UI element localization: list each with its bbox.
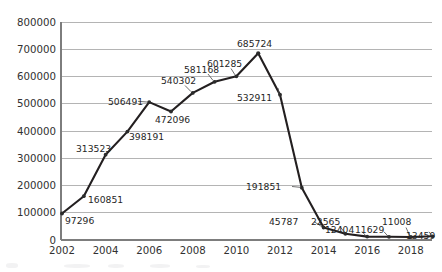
data-label: 11008 — [382, 216, 411, 227]
data-label: 12404 — [325, 224, 354, 235]
data-label: 160851 — [88, 194, 123, 205]
data-label: 97296 — [65, 215, 94, 226]
data-point — [191, 91, 195, 95]
y-tick-label: 0 — [50, 235, 56, 246]
data-point — [256, 51, 260, 55]
data-label: 13459 — [406, 230, 435, 241]
y-tick-label: 700000 — [17, 44, 56, 55]
x-tick-label: 2016 — [354, 245, 380, 256]
data-label: 532911 — [237, 92, 272, 103]
leader-line — [231, 69, 235, 75]
x-tick-label: 2014 — [311, 245, 337, 256]
data-label: 398191 — [129, 131, 164, 142]
y-tick-label: 300000 — [17, 153, 56, 164]
line-chart: 800000 700000 600000 500000 400000 30000… — [0, 0, 442, 272]
x-tick-label: 2006 — [136, 245, 162, 256]
data-label: 313523 — [76, 143, 111, 154]
x-tick-label: 2018 — [398, 245, 424, 256]
x-tick-label: 2010 — [223, 245, 249, 256]
data-point — [82, 194, 86, 198]
chart-canvas: 800000 700000 600000 500000 400000 30000… — [0, 0, 442, 272]
leader-line — [185, 86, 191, 92]
x-tick-label: 2008 — [180, 245, 206, 256]
y-tick-label: 800000 — [17, 17, 56, 28]
data-point — [169, 110, 173, 114]
data-label: 191851 — [246, 181, 281, 192]
data-label: 540302 — [161, 75, 196, 86]
data-label: 45787 — [269, 216, 298, 227]
series-line — [62, 53, 433, 237]
leader-line — [208, 74, 213, 80]
data-point — [235, 74, 239, 78]
y-tick-label: 600000 — [17, 71, 56, 82]
y-tick-label: 200000 — [17, 180, 56, 191]
leader-line — [292, 187, 301, 188]
x-tick-label: 2012 — [267, 245, 293, 256]
data-label: 601285 — [207, 58, 242, 69]
data-label: 11629 — [355, 224, 384, 235]
x-axis-tick-labels: 2002 2004 2006 2008 2010 2012 2014 2016 … — [49, 245, 424, 256]
data-point — [213, 80, 217, 84]
data-label: 472096 — [155, 114, 190, 125]
x-tick-label: 2004 — [93, 245, 119, 256]
label-leader-lines — [138, 69, 432, 237]
data-label: 685724 — [237, 38, 272, 49]
leader-line — [384, 232, 388, 236]
data-point — [60, 212, 64, 216]
x-tick-label: 2002 — [49, 245, 75, 256]
y-axis-tick-labels: 800000 700000 600000 500000 400000 30000… — [17, 17, 56, 246]
data-label: 506491 — [108, 96, 143, 107]
y-tick-label: 100000 — [17, 207, 56, 218]
y-tick-label: 400000 — [17, 126, 56, 137]
y-tick-label: 500000 — [17, 98, 56, 109]
data-point-markers — [60, 51, 434, 239]
